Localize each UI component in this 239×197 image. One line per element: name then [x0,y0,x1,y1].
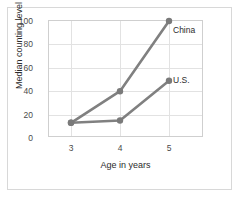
y-tick-label-0: 0 [0,134,33,143]
x-axis-label: Age in years [48,161,203,170]
y-tick-label-20: 20 [0,111,33,120]
series-label-us: U.S. [173,76,190,85]
chart-figure: Median counting level 100 80 60 40 20 0 … [0,0,239,197]
series-label-china: China [173,26,195,35]
data-point-us-4 [117,117,123,123]
x-tick-label-3: 3 [56,144,86,153]
data-point-china-4 [117,88,123,94]
y-tick-label-80: 80 [0,40,33,49]
data-point-us-3 [68,120,74,126]
x-tick-label-4: 4 [105,144,135,153]
y-tick-label-100: 100 [0,17,33,26]
data-point-us-5 [166,78,172,84]
y-tick-label-60: 60 [0,64,33,73]
series-line-china [71,21,169,123]
series-line-us [71,81,169,123]
y-tick-label-40: 40 [0,87,33,96]
x-tick-label-5: 5 [154,144,184,153]
data-point-china-5 [166,18,172,24]
